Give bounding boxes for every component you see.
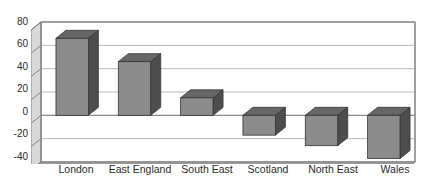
y-tick-label: 40: [0, 62, 28, 72]
x-tick-label: Wales: [381, 163, 410, 175]
bar: [243, 107, 285, 135]
y-tick-label: 20: [0, 84, 28, 94]
y-tick-label: 0: [0, 107, 28, 117]
x-tick-label: South East: [181, 163, 232, 175]
plot-area: [31, 14, 417, 164]
bar: [181, 90, 223, 116]
y-tick-label: 60: [0, 39, 28, 49]
y-tick-label: 80: [0, 17, 28, 27]
x-axis: London East England South East Scotland …: [0, 163, 422, 183]
y-tick-label: -40: [0, 152, 28, 162]
x-tick-label: London: [58, 163, 93, 175]
bar: [118, 54, 160, 116]
y-tick-label: -20: [0, 129, 28, 139]
x-tick-label: East England: [109, 163, 171, 175]
plot-svg: [31, 14, 417, 164]
bar-chart: 80 60 40 20 0 -20 -40 London East Englan…: [0, 0, 422, 186]
bar: [305, 107, 347, 145]
y-axis: 80 60 40 20 0 -20 -40: [0, 0, 28, 186]
x-tick-label: North East: [308, 163, 358, 175]
bar: [368, 107, 410, 158]
bar: [56, 30, 98, 115]
x-tick-label: Scotland: [248, 163, 289, 175]
